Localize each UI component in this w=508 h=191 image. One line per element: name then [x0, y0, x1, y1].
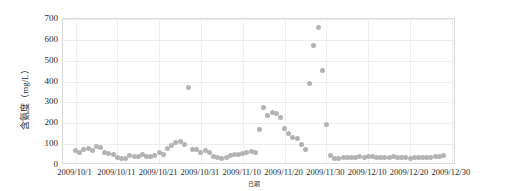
y-axis: 含氨度（mg/L） 0100200300400500600700: [0, 0, 62, 191]
y-tick-label: 300: [45, 97, 59, 106]
y-axis-title: 含氨度（mg/L）: [18, 38, 31, 158]
x-tick-label: 2009/10/11: [97, 167, 135, 177]
gridline-vertical: [326, 19, 327, 163]
gridline-vertical: [243, 19, 244, 163]
data-point: [257, 127, 262, 132]
x-tick-label: 2009/10/31: [181, 167, 220, 177]
data-point: [90, 148, 95, 153]
data-point: [261, 105, 266, 110]
gridline-horizontal: [63, 123, 454, 124]
x-tick-label: 2009/11/10: [223, 167, 261, 177]
data-point: [295, 136, 300, 141]
data-point: [265, 113, 270, 118]
gridline-horizontal: [63, 102, 454, 103]
y-tick-label: 700: [45, 14, 59, 23]
gridline-vertical: [76, 19, 77, 163]
data-point: [186, 85, 191, 90]
gridline-vertical: [410, 19, 411, 163]
plot-area: [62, 18, 455, 164]
gridline-vertical: [201, 19, 202, 163]
gridline-vertical: [117, 19, 118, 163]
gridline-horizontal: [63, 61, 454, 62]
data-point: [253, 150, 258, 155]
data-point: [282, 126, 287, 131]
gridline-horizontal: [63, 40, 454, 41]
data-point: [278, 115, 283, 120]
gridline-vertical: [368, 19, 369, 163]
data-point: [320, 68, 325, 73]
y-tick-label: 500: [45, 55, 59, 64]
data-point: [303, 147, 308, 152]
data-point: [441, 153, 446, 158]
gridline-horizontal: [63, 19, 454, 20]
x-tick-label: 2009/11/20: [264, 167, 302, 177]
data-point: [182, 142, 187, 147]
y-tick-label: 200: [45, 118, 59, 127]
x-axis-title: 日期: [248, 179, 260, 188]
x-tick-label: 2009/12/20: [390, 167, 429, 177]
gridline-horizontal: [63, 144, 454, 145]
scatter-chart: 含氨度（mg/L） 0100200300400500600700 日期 2009…: [0, 0, 508, 191]
data-point: [316, 25, 321, 30]
data-point: [299, 142, 304, 147]
y-tick-label: 400: [45, 76, 59, 85]
x-tick-label: 2009/11/30: [306, 167, 344, 177]
x-axis: 日期 2009/10/12009/10/112009/10/212009/10/…: [0, 164, 508, 191]
gridline-vertical: [159, 19, 160, 163]
y-tick-label: 600: [45, 34, 59, 43]
gridline-horizontal: [63, 82, 454, 83]
data-point: [311, 43, 316, 48]
gridline-vertical: [285, 19, 286, 163]
x-tick-label: 2009/10/21: [139, 167, 178, 177]
data-point: [161, 152, 166, 157]
data-point: [324, 122, 329, 127]
gridline-vertical: [452, 19, 453, 163]
data-point: [307, 81, 312, 86]
x-tick-label: 2009/10/1: [57, 167, 91, 177]
x-tick-label: 2009/12/30: [431, 167, 470, 177]
x-tick-label: 2009/12/10: [348, 167, 387, 177]
y-tick-label: 100: [45, 139, 59, 148]
